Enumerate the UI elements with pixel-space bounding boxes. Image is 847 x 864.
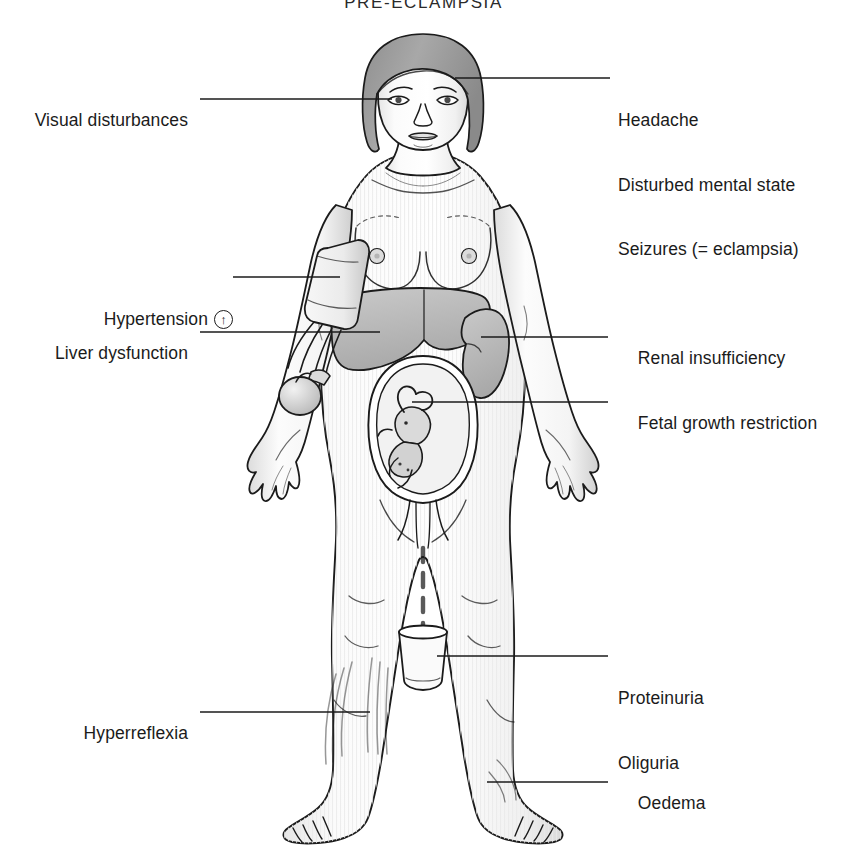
- label-fetal-growth-restriction-text: Fetal growth restriction: [638, 413, 817, 433]
- label-headache: Headache: [618, 110, 847, 132]
- label-visual-disturbances: Visual disturbances: [0, 88, 188, 153]
- label-renal-insufficiency-text: Renal insufficiency: [638, 348, 786, 368]
- label-headache-group: Headache Disturbed mental state Seizures…: [618, 67, 847, 304]
- left-eye: [388, 96, 409, 104]
- label-oedema: Oedema: [618, 771, 847, 836]
- label-disturbed-mental-state: Disturbed mental state: [618, 175, 847, 197]
- right-eye: [437, 96, 458, 104]
- label-oedema-text: Oedema: [638, 793, 706, 813]
- label-fetal-growth-restriction: Fetal growth restriction: [618, 391, 847, 456]
- label-visual-disturbances-text: Visual disturbances: [35, 110, 188, 130]
- label-seizures: Seizures (= eclampsia): [618, 239, 847, 261]
- label-hyperreflexia: Hyperreflexia: [0, 701, 188, 766]
- label-proteinuria: Proteinuria: [618, 688, 847, 710]
- up-arrow-circle-icon: ↑: [214, 310, 233, 329]
- diagram-canvas: PRE-ECLAMPSIA: [0, 0, 847, 864]
- label-liver-dysfunction-text: Liver dysfunction: [55, 343, 188, 363]
- head: [363, 34, 484, 152]
- label-liver-dysfunction: Liver dysfunction: [0, 321, 188, 386]
- label-renal-insufficiency: Renal insufficiency: [618, 326, 847, 391]
- label-hyperreflexia-text: Hyperreflexia: [84, 723, 188, 743]
